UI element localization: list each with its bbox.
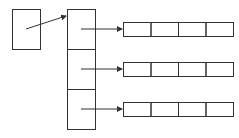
- pointer-arrow: [26, 16, 66, 29]
- row-array-cell: [179, 103, 207, 117]
- row-array-cell: [206, 103, 234, 117]
- row-array-cell: [151, 23, 179, 37]
- row-array-cell: [124, 103, 152, 117]
- row-array-cell: [206, 23, 234, 37]
- diagram-canvas: [0, 0, 239, 138]
- row-array-cell: [179, 23, 207, 37]
- row-array-cell: [206, 63, 234, 77]
- row-array-cell: [179, 63, 207, 77]
- pointer-array-diagram: [0, 0, 239, 138]
- row-array-cell: [124, 23, 152, 37]
- row-array-cell: [124, 63, 152, 77]
- pointer-box: [13, 10, 41, 50]
- row-array-cell: [151, 103, 179, 117]
- pointer-variable: [13, 10, 67, 50]
- row-arrays: [81, 23, 234, 117]
- row-array-cell: [151, 63, 179, 77]
